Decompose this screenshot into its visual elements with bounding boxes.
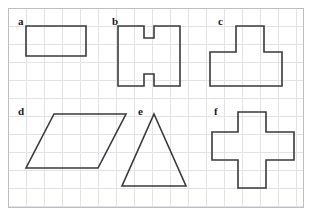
shapes-layer <box>8 8 304 208</box>
grid-paper-area: a b c d e f <box>8 8 304 208</box>
shape-label-e: e <box>138 106 143 117</box>
shape-label-f: f <box>214 106 218 117</box>
shape-b-h-shape <box>118 26 180 86</box>
shape-a-rectangle <box>26 26 86 56</box>
shape-e-triangle <box>122 114 186 186</box>
worksheet-canvas: a b c d e f <box>0 0 312 216</box>
shape-label-a: a <box>18 16 24 27</box>
shape-c-t-shape <box>210 26 282 86</box>
shape-d-parallelogram <box>26 114 126 168</box>
shape-label-b: b <box>112 16 118 27</box>
shape-label-d: d <box>18 106 24 117</box>
shape-label-c: c <box>218 16 223 27</box>
shape-f-plus-cross <box>212 112 294 188</box>
